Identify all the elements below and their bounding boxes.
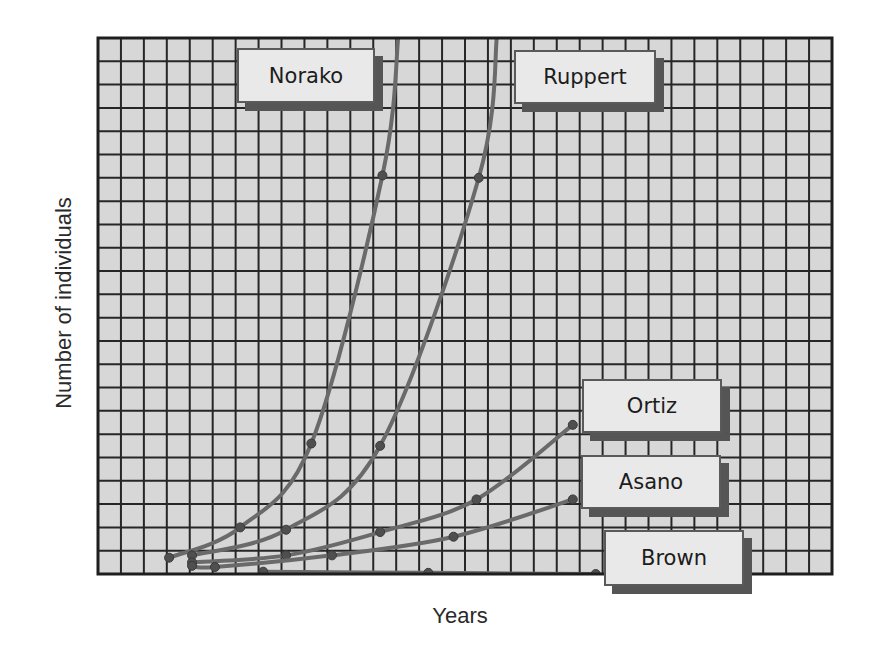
data-point-marker <box>165 553 174 562</box>
data-point-marker <box>210 563 219 572</box>
data-point-marker <box>327 551 336 560</box>
data-point-marker <box>376 441 385 450</box>
data-point-marker <box>236 523 245 532</box>
series-label-ruppert: Ruppert <box>514 50 656 104</box>
series-label-text: Norako <box>269 64 343 88</box>
series-label-text: Brown <box>641 546 707 570</box>
y-axis-label: Number of individuals <box>51 153 77 453</box>
data-point-marker <box>376 528 385 537</box>
data-point-marker <box>568 495 577 504</box>
series-label-ortiz: Ortiz <box>582 379 722 433</box>
data-point-marker <box>474 173 483 182</box>
data-point-marker <box>568 420 577 429</box>
series-label-brown: Brown <box>604 530 744 586</box>
data-point-marker <box>378 171 387 180</box>
series-label-text: Ruppert <box>543 65 626 89</box>
data-point-marker <box>282 525 291 534</box>
series-label-text: Ortiz <box>627 394 677 418</box>
data-point-marker <box>307 439 316 448</box>
data-point-marker <box>188 561 197 570</box>
series-label-asano: Asano <box>581 455 721 509</box>
series-label-text: Asano <box>619 470 683 494</box>
series-label-norako: Norako <box>237 48 375 103</box>
x-axis-label: Years <box>0 603 870 629</box>
data-point-marker <box>449 532 458 541</box>
data-point-marker <box>472 495 481 504</box>
